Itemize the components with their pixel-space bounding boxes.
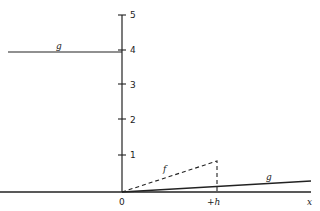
- h-label: +h: [207, 197, 220, 207]
- tick-label-3: 3: [130, 80, 136, 90]
- diagram-canvas: 5 4 3 2 1 g g f 0 +h x: [0, 0, 320, 211]
- f-label: f: [162, 164, 168, 174]
- tick-label-2: 2: [130, 115, 136, 125]
- g-right-label: g: [266, 172, 272, 182]
- tick-label-1: 1: [130, 150, 136, 160]
- tick-label-5: 5: [130, 10, 136, 20]
- x-axis-label: x: [307, 197, 312, 207]
- tick-label-4: 4: [130, 45, 136, 55]
- g-left-label: g: [56, 41, 62, 51]
- origin-label: 0: [119, 197, 125, 207]
